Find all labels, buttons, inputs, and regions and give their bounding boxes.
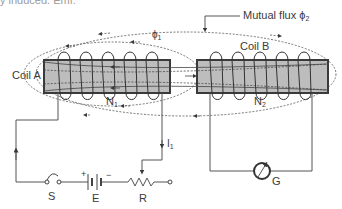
n1-label: N1 — [106, 96, 118, 108]
mutual-flux-pointer — [205, 16, 240, 30]
switch-symbol — [45, 174, 61, 184]
i1-label: I1 — [167, 139, 174, 150]
coil-b-label: Coil B — [240, 41, 269, 52]
battery-plus-label: + — [81, 170, 86, 179]
coil-a-label: Coil A — [12, 70, 41, 81]
coil-a-core — [44, 60, 170, 93]
battery-symbol — [88, 174, 101, 190]
terminal-icon — [168, 180, 172, 184]
galvanometer-label: G — [272, 176, 281, 187]
resistor-label: R — [139, 193, 147, 204]
battery-label: E — [92, 193, 99, 204]
mutual-induction-diagram: y induced. Emf. — [0, 0, 342, 209]
battery-minus-label: − — [106, 171, 111, 180]
phi1-label: ϕ1 — [152, 30, 162, 41]
mutual-flux-label: Mutual flux ϕ2 — [243, 10, 309, 22]
switch-label: S — [48, 191, 55, 202]
n2-label: N2 — [254, 96, 266, 108]
circuit-drawing — [0, 0, 342, 209]
